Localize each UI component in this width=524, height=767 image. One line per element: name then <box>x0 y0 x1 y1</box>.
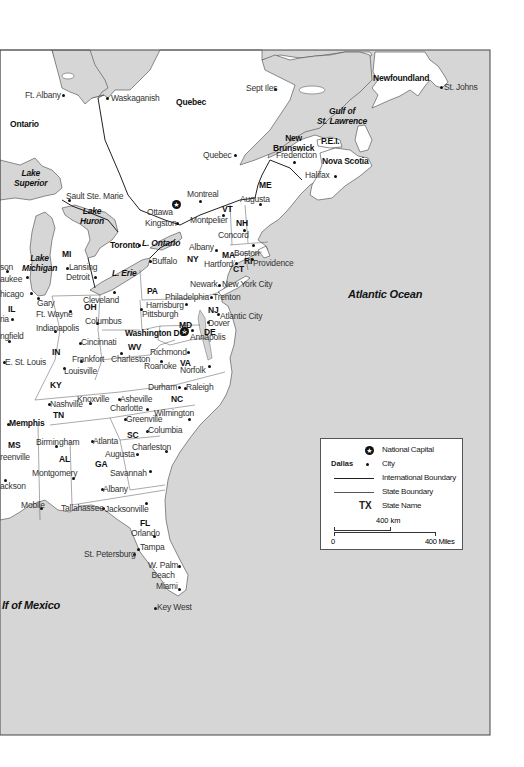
state-ny: NY <box>187 254 198 264</box>
city-charleston-sc: Charleston <box>132 442 171 452</box>
city-dot <box>136 453 139 456</box>
state-boundary-line-icon <box>334 492 374 493</box>
city-dot <box>293 161 296 164</box>
city-columbus: Columbus <box>85 316 122 326</box>
city-trenton: Trenton <box>213 292 241 302</box>
state-me: ME <box>259 180 271 190</box>
city-frankfort: Frankfort <box>72 354 104 364</box>
city-boston: Boston <box>234 248 259 258</box>
scale-miles-label: 400 Miles <box>425 537 454 546</box>
city-augusta-me: Augusta <box>240 194 270 204</box>
city-new-york-city: New York City <box>222 279 272 289</box>
city-st-johns: St. Johns <box>444 82 478 92</box>
label-lake-ontario: L. Ontario <box>142 238 180 248</box>
city-augusta-ga: Augusta <box>105 449 135 459</box>
legend-city-example: Dallas <box>331 459 353 468</box>
label-gulf-of-mexico: lf of Mexico <box>2 600 60 610</box>
city-concord: Concord <box>218 230 249 240</box>
label-lake-huron: Lake Huron <box>80 206 104 226</box>
state-sc: SC <box>127 430 138 440</box>
city-dot <box>185 303 188 306</box>
city-cincinnati: Cincinnati <box>81 337 116 347</box>
legend-row-city: Dallas City <box>321 459 462 471</box>
legend-state-boundary-label: State Boundary <box>382 487 433 496</box>
city-dot-icon <box>366 463 369 466</box>
city-dover: Dover <box>208 318 230 328</box>
city-columbia: Columbia <box>148 425 182 435</box>
city-springfield: ngfield <box>0 331 24 341</box>
region-quebec: Quebec <box>176 97 206 107</box>
map-legend: ★ National Capital Dallas City Internati… <box>320 438 463 550</box>
legend-state-name-example: TX <box>359 500 372 511</box>
city-greenville-sc: Greenville <box>126 414 162 424</box>
city-ottawa: Ottawa <box>147 207 173 217</box>
city-ft-wayne: Ft. Wayne <box>36 309 73 319</box>
city-dot <box>440 86 443 89</box>
city-detroit: Detroit <box>66 272 90 282</box>
city-dot <box>30 292 33 295</box>
city-jackson: ackson <box>0 481 26 491</box>
city-cleveland: Cleveland <box>83 295 119 305</box>
state-fl: FL <box>140 518 150 528</box>
legend-row-state-name: TX State Name <box>321 501 462 513</box>
label-lake-superior: Lake Superior <box>14 168 47 188</box>
city-dot <box>199 200 202 203</box>
state-wv: WV <box>128 342 141 352</box>
city-buffalo: Buffalo <box>152 256 177 266</box>
city-milwaukee: aukee <box>0 274 22 284</box>
city-durham: Durham <box>148 382 177 392</box>
map-canvas <box>0 0 524 767</box>
city-hartford: Hartford <box>204 259 233 269</box>
city-dot <box>146 408 149 411</box>
city-norfolk: Norfolk <box>180 365 206 375</box>
city-charlotte: Charlotte <box>110 403 143 413</box>
city-tampa: Tampa <box>140 542 165 552</box>
scale-zero-label: 0 <box>331 537 335 546</box>
city-dot <box>234 154 237 157</box>
city-montreal: Montreal <box>187 189 218 199</box>
city-ft-albany: Ft. Albany <box>25 90 61 100</box>
legend-city-label: City <box>382 459 395 468</box>
city-providence: Providence <box>253 258 294 268</box>
state-ky: KY <box>50 380 61 390</box>
island-akimiski <box>62 73 74 79</box>
state-vt: VT <box>222 204 232 214</box>
legend-row-capital: ★ National Capital <box>321 445 462 457</box>
city-dot <box>178 588 181 591</box>
city-dot <box>188 418 191 421</box>
region-pei: P.E.I. <box>321 136 340 146</box>
city-dot <box>215 249 218 252</box>
scale-bar-miles <box>334 532 436 536</box>
city-peoria: ria <box>0 314 9 324</box>
city-dot <box>149 470 152 473</box>
city-kingston: Kingston <box>145 218 176 228</box>
city-dot <box>334 175 337 178</box>
city-chicago: hicago <box>0 289 24 299</box>
city-annapolis: Annapolis <box>190 332 226 342</box>
city-st-petersburg: St. Petersburg <box>84 549 136 559</box>
state-ct: CT <box>233 264 244 274</box>
city-dot <box>62 94 65 97</box>
city-mobile: Mobile <box>21 500 45 510</box>
city-tallahassee: Tallahassee <box>61 503 104 513</box>
scale-km-label: 400 km <box>376 516 401 525</box>
city-e-st-louis: E. St. Louis <box>5 357 46 367</box>
national-capital-icon: ★ <box>172 200 181 209</box>
city-richmond: Richmond <box>150 347 187 357</box>
city-albany: Albany <box>189 242 214 252</box>
city-birmingham: Birmingham <box>36 437 79 447</box>
city-sault-ste-marie: Sault Ste. Marie <box>66 191 123 201</box>
island-anticosti <box>299 86 325 94</box>
city-dot <box>94 276 97 279</box>
state-pa: PA <box>147 286 158 296</box>
city-dot <box>178 386 181 389</box>
label-atlantic-ocean: Atlantic Ocean <box>348 289 422 299</box>
city-halifax: Halifax <box>305 170 330 180</box>
city-washington-dc: Washington DC <box>125 328 185 338</box>
city-greenville-ms: reenville <box>0 452 30 462</box>
legend-intl-boundary-label: International Boundary <box>382 473 456 482</box>
city-indianapolis: Indianapolis <box>36 323 79 333</box>
intl-boundary-line-icon <box>334 478 374 479</box>
scale-bar-km <box>334 527 391 531</box>
state-nh: NH <box>236 218 248 228</box>
